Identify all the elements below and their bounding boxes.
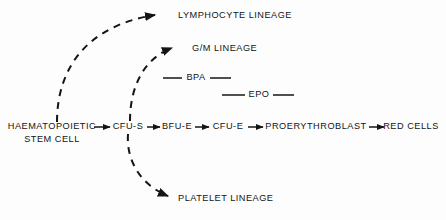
node-stem-cell-label-line1: HAEMATOPOIETIC bbox=[8, 121, 96, 131]
factor-lines bbox=[163, 78, 294, 95]
diagram-canvas bbox=[0, 0, 446, 220]
node-stem-cell-label-line2: STEM CELL bbox=[8, 133, 96, 146]
branch-label-platelet-lineage: PLATELET LINEAGE bbox=[178, 192, 274, 205]
node-cfu-e: CFU-E bbox=[213, 120, 244, 133]
curve-to-platelet-lineage bbox=[128, 134, 168, 196]
branch-label-lymphocyte-lineage: LYMPHOCYTE LINEAGE bbox=[178, 9, 292, 22]
haematopoiesis-diagram: HAEMATOPOIETIC STEM CELL CFU-S BFU-E CFU… bbox=[0, 0, 446, 220]
node-red-cells: RED CELLS bbox=[383, 120, 439, 133]
node-stem-cell: HAEMATOPOIETIC STEM CELL bbox=[8, 120, 96, 146]
node-proerythroblast: PROERYTHROBLAST bbox=[265, 120, 366, 133]
curve-to-lymphocyte-lineage bbox=[57, 15, 155, 122]
node-bfu-e: BFU-E bbox=[162, 120, 192, 133]
node-cfu-s: CFU-S bbox=[113, 120, 144, 133]
curve-to-gm-lineage bbox=[130, 48, 172, 121]
branch-curves bbox=[57, 15, 172, 196]
factor-label-epo: EPO bbox=[249, 89, 270, 99]
branch-label-gm-lineage: G/M LINEAGE bbox=[192, 42, 257, 55]
factor-label-bpa: BPA bbox=[186, 72, 205, 82]
